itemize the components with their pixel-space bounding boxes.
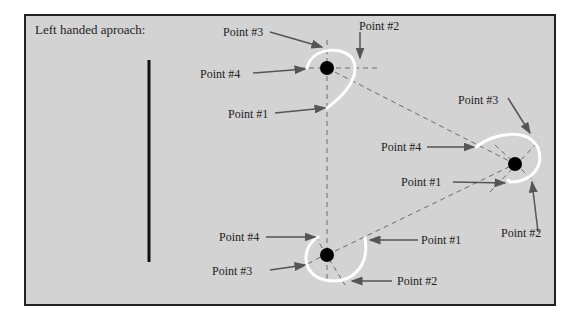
- label-arrows: [253, 32, 538, 281]
- node-top: [320, 61, 334, 75]
- path-bottom: [306, 237, 366, 281]
- label-top-point-3: Point #3: [223, 25, 263, 39]
- label-top-point-4: Point #4: [200, 67, 240, 81]
- path-top: [307, 50, 355, 108]
- label-right-point-4: Point #4: [381, 140, 421, 154]
- label-bottom-point-4: Point #4: [219, 230, 259, 244]
- node-bottom: [320, 248, 334, 262]
- diagram-title: Left handed aproach:: [35, 22, 145, 37]
- guide-lines: [300, 40, 540, 285]
- label-right-point-2: Point #2: [501, 226, 541, 240]
- node-right: [508, 157, 522, 171]
- label-bottom-point-3: Point #3: [212, 264, 252, 278]
- diagram-canvas: Left handed aproach: Point #3: [0, 0, 580, 322]
- label-top-point-1: Point #1: [228, 107, 268, 121]
- label-right-point-3: Point #3: [458, 93, 498, 107]
- label-bottom-point-1: Point #1: [421, 233, 461, 247]
- label-top-point-2: Point #2: [359, 19, 399, 33]
- label-right-point-1: Point #1: [401, 175, 441, 189]
- label-bottom-point-2: Point #2: [397, 274, 437, 288]
- path-right: [476, 134, 540, 182]
